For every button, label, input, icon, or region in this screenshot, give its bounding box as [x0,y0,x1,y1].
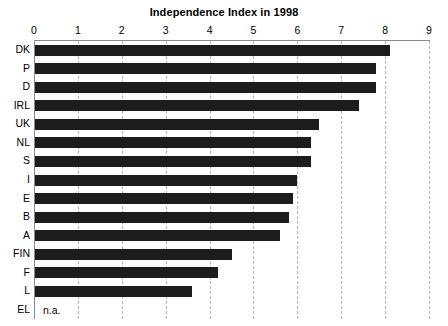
category-axis-labels: DKPDIRLUKNLSIEBAFINFLEL [0,40,448,318]
x-tick-label: 3 [163,24,169,37]
x-tick-label: 1 [75,24,81,37]
category-label: EL [0,303,30,315]
category-label: UK [0,117,30,129]
chart-title: Independence Index in 1998 [0,6,448,19]
x-tick-label: 5 [251,24,257,37]
x-tick-label: 9 [426,24,432,37]
x-tick-label: 7 [338,24,344,37]
category-label: IRL [0,99,30,111]
category-label: D [0,80,30,92]
category-label: S [0,154,30,166]
category-label: E [0,192,30,204]
category-label: NL [0,136,30,148]
category-label: B [0,210,30,222]
category-label: DK [0,43,30,55]
category-label: F [0,266,30,278]
category-label: A [0,229,30,241]
category-label: FIN [0,247,30,259]
x-tick-label: 0 [31,24,37,37]
x-tick-label: 2 [119,24,125,37]
category-label: I [0,173,30,185]
category-label: P [0,62,30,74]
x-tick-label: 6 [294,24,300,37]
x-tick-label: 8 [382,24,388,37]
bar-chart: Independence Index in 1998 0123456789 n.… [0,0,448,326]
x-tick-label: 4 [207,24,213,37]
category-label: L [0,284,30,296]
x-axis-tick-labels: 0123456789 [0,24,448,37]
